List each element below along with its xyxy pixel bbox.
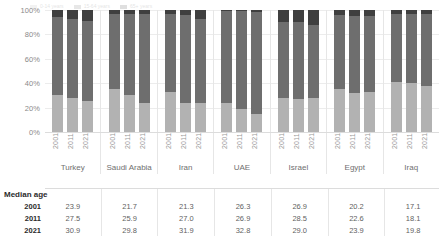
bar-segment-0-14 bbox=[236, 109, 247, 132]
country-label: Iraq bbox=[383, 161, 439, 174]
y-axis-tick-label: 0% bbox=[29, 128, 40, 137]
stacked-bar[interactable] bbox=[139, 10, 150, 132]
bar-segment-15-64 bbox=[334, 15, 345, 89]
table-cell: 19.8 bbox=[384, 224, 441, 236]
bar-segment-15-64 bbox=[364, 16, 375, 92]
year-tick-label: 2011 bbox=[124, 133, 135, 161]
bar-segment-0-14 bbox=[124, 95, 135, 132]
bar-segment-15-64 bbox=[52, 17, 63, 95]
stacked-bar[interactable] bbox=[391, 10, 402, 132]
stacked-bar[interactable] bbox=[124, 10, 135, 132]
bar-segment-0-14 bbox=[109, 89, 120, 132]
bar-segment-15-64 bbox=[67, 19, 78, 98]
bar-group bbox=[270, 10, 326, 132]
country-label: Iran bbox=[157, 161, 213, 174]
stacked-bar[interactable] bbox=[195, 10, 206, 132]
stacked-bar[interactable] bbox=[109, 10, 120, 132]
stacked-bar[interactable] bbox=[364, 10, 375, 132]
table-row-label: 2001 bbox=[0, 202, 45, 211]
plot-area bbox=[45, 10, 439, 132]
bar-segment-15-64 bbox=[236, 11, 247, 109]
stacked-bar[interactable] bbox=[308, 10, 319, 132]
table-row-label: 2021 bbox=[0, 226, 45, 235]
year-tick-label: 2011 bbox=[180, 133, 191, 161]
y-axis: 100%80%60%40%20%0% bbox=[0, 10, 44, 132]
bar-segment-0-14 bbox=[195, 103, 206, 132]
year-tick-label: 2011 bbox=[349, 133, 360, 161]
table-header-cell bbox=[328, 188, 385, 200]
year-tick-label: 2001 bbox=[221, 133, 232, 161]
bar-segment-65-plus bbox=[82, 10, 93, 21]
stacked-bar[interactable] bbox=[421, 10, 432, 132]
stacked-bar[interactable] bbox=[251, 10, 262, 132]
table-cell: 21.3 bbox=[157, 200, 214, 212]
year-tick-label: 2001 bbox=[109, 133, 120, 161]
stacked-bar[interactable] bbox=[406, 10, 417, 132]
table-cell: 29.8 bbox=[101, 224, 158, 236]
table-cell: 31.9 bbox=[157, 224, 214, 236]
stacked-bar[interactable] bbox=[236, 10, 247, 132]
year-tick-label: 2021 bbox=[251, 133, 262, 161]
year-tick-label: 2001 bbox=[334, 133, 345, 161]
table-header-cell bbox=[271, 188, 328, 200]
country-label: Egypt bbox=[326, 161, 382, 174]
table-cell: 22.6 bbox=[328, 212, 385, 224]
year-tick-label: 2011 bbox=[293, 133, 304, 161]
country-label: Turkey bbox=[45, 161, 100, 174]
stacked-bar[interactable] bbox=[180, 10, 191, 132]
table-cell: 27.5 bbox=[45, 212, 101, 224]
bar-segment-15-64 bbox=[406, 14, 417, 84]
table-cell: 27.0 bbox=[157, 212, 214, 224]
stacked-bar[interactable] bbox=[334, 10, 345, 132]
bar-segment-0-14 bbox=[349, 93, 360, 132]
year-tick-label: 2021 bbox=[139, 133, 150, 161]
table-cell: 29.0 bbox=[271, 224, 328, 236]
bar-segment-15-64 bbox=[82, 21, 93, 102]
country-axis-labels: TurkeySaudi ArabiaIranUAEIsraelEgyptIraq bbox=[45, 161, 439, 174]
bar-segment-0-14 bbox=[406, 83, 417, 132]
stacked-bar[interactable] bbox=[293, 10, 304, 132]
legend-item: 15-64 years bbox=[74, 4, 110, 9]
legend-label: 15-64 years bbox=[84, 4, 110, 9]
y-axis-tick-label: 20% bbox=[25, 103, 40, 112]
country-label: Saudi Arabia bbox=[100, 161, 156, 174]
bar-segment-15-64 bbox=[308, 25, 319, 98]
bar-segment-15-64 bbox=[293, 22, 304, 99]
year-tick-label: 2001 bbox=[52, 133, 63, 161]
table-row: 201127.525.927.026.928.522.618.1 bbox=[0, 212, 441, 224]
bar-segment-15-64 bbox=[391, 14, 402, 82]
table-cell: 26.9 bbox=[214, 212, 271, 224]
bar-segment-15-64 bbox=[349, 16, 360, 93]
stacked-bar[interactable] bbox=[221, 10, 232, 132]
bar-group bbox=[326, 10, 382, 132]
year-label-group: 200120112021 bbox=[326, 133, 382, 161]
table-cell: 26.3 bbox=[214, 200, 271, 212]
legend-label: 0-14 years bbox=[40, 4, 64, 9]
stacked-bar[interactable] bbox=[67, 10, 78, 132]
bar-segment-65-plus bbox=[293, 10, 304, 22]
year-tick-label: 2021 bbox=[364, 133, 375, 161]
stacked-bar[interactable] bbox=[52, 10, 63, 132]
stacked-bar[interactable] bbox=[165, 10, 176, 132]
table-cell: 18.1 bbox=[384, 212, 441, 224]
bar-segment-0-14 bbox=[391, 82, 402, 132]
year-axis-labels: 2001201120212001201120212001201120212001… bbox=[45, 133, 439, 161]
bar-group bbox=[45, 10, 100, 132]
year-tick-label: 2001 bbox=[165, 133, 176, 161]
table-header-cells bbox=[45, 188, 441, 200]
bar-segment-65-plus bbox=[195, 10, 206, 19]
stacked-bar[interactable] bbox=[82, 10, 93, 132]
bar-group bbox=[213, 10, 269, 132]
year-tick-label: 2011 bbox=[236, 133, 247, 161]
stacked-bar[interactable] bbox=[349, 10, 360, 132]
bar-segment-0-14 bbox=[180, 103, 191, 132]
year-tick-label: 2021 bbox=[421, 133, 432, 161]
year-tick-label: 2001 bbox=[278, 133, 289, 161]
year-tick-label: 2001 bbox=[391, 133, 402, 161]
table-header-row: Median age bbox=[0, 188, 441, 200]
bar-segment-15-64 bbox=[139, 14, 150, 103]
bar-group bbox=[100, 10, 156, 132]
bar-segment-65-plus bbox=[308, 10, 319, 25]
bar-segment-15-64 bbox=[221, 11, 232, 103]
stacked-bar[interactable] bbox=[278, 10, 289, 132]
